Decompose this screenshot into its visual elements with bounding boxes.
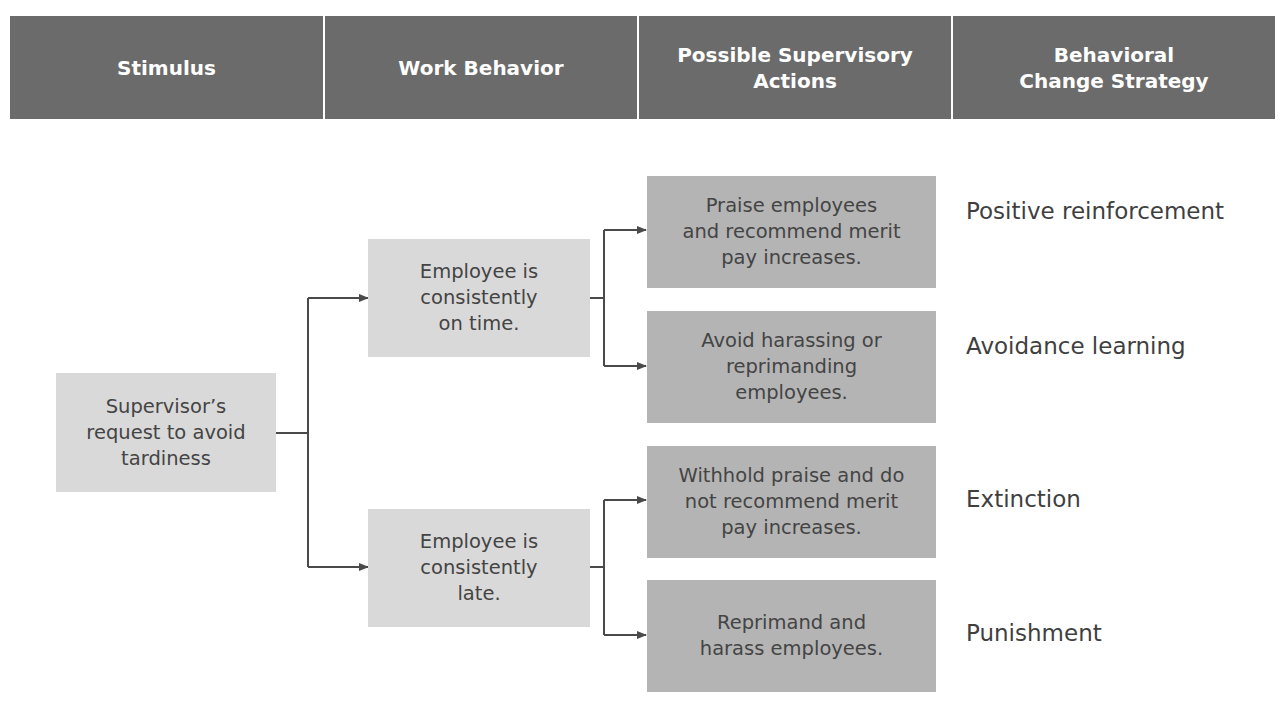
strategy-punishment: Punishment [966,620,1102,646]
strategy-extinction: Extinction [966,486,1081,512]
behavior-box-on-time: Employee is consistently on time. [368,239,590,357]
action-box-avoid-harassing: Avoid harassing or reprimanding employee… [647,311,936,423]
strategy-avoidance-learning: Avoidance learning [966,333,1186,359]
action-box-reprimand: Reprimand and harass employees. [647,580,936,692]
action-box-praise: Praise employees and recommend merit pay… [647,176,936,288]
behavior-box-late: Employee is consistently late. [368,509,590,627]
stimulus-box: Supervisor’s request to avoid tardiness [56,373,276,492]
action-box-withhold-praise: Withhold praise and do not recommend mer… [647,446,936,558]
strategy-positive-reinforcement: Positive reinforcement [966,198,1224,224]
